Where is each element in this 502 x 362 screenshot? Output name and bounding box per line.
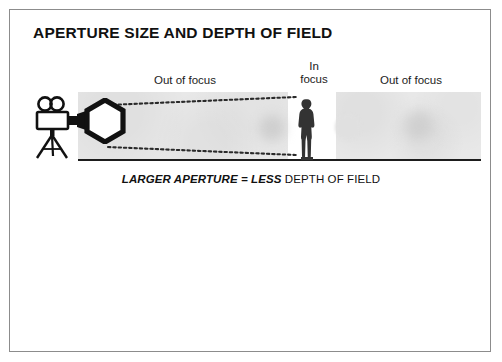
blur-circle-out-of-focus — [404, 111, 434, 141]
label-in-focus: In focus — [286, 60, 342, 86]
circle-in-focus — [335, 114, 361, 140]
label-out-of-focus-right: Out of focus — [356, 74, 466, 87]
person-silhouette-icon — [294, 97, 320, 161]
label-out-of-focus-left: Out of focus — [130, 74, 240, 87]
panel-small-aperture: SMALLER APERTURE = MORE DEPTH OF FIELD — [0, 181, 502, 362]
blur-circle-out-of-focus — [259, 115, 285, 141]
scene-strip-large-aperture — [78, 92, 481, 160]
aperture-large-hexagon-icon — [82, 98, 128, 144]
aperture-depth-of-field-figure: APERTURE SIZE AND DEPTH OF FIELD Out of … — [0, 0, 502, 362]
movie-camera-icon — [30, 96, 86, 160]
ground-line-top — [78, 159, 481, 161]
panel-large-aperture: Out of focus In focus Out of focus — [0, 0, 502, 181]
